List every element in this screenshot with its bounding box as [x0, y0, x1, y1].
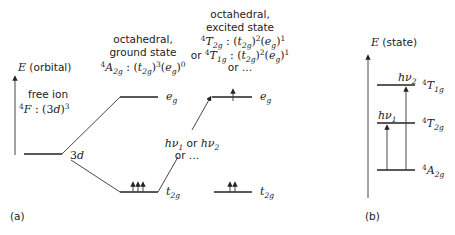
- ground-t2g-electrons: [133, 184, 143, 192]
- ground-title-2: ground state: [109, 46, 176, 58]
- excited-eg-label: eg: [260, 90, 272, 105]
- split-line-down: [71, 160, 120, 192]
- term-T1g: 4T1g: [422, 78, 444, 94]
- panel-b: E (state) 4T1g 4T2g 4A2g hν1 hν2 (b): [365, 36, 445, 222]
- panel-a-label: (a): [10, 210, 25, 222]
- energy-level-diagram: E (orbital) free ion 4F : (3d)3 3d octah…: [0, 0, 455, 235]
- label-3d: 3d: [70, 149, 84, 162]
- ground-title-1: octahedral,: [113, 33, 173, 45]
- axis-label-state: E (state): [370, 36, 417, 49]
- excited-t2g-electrons: [230, 184, 235, 192]
- label-hv1: hν1: [378, 109, 397, 124]
- excited-title-1: octahedral,: [210, 8, 270, 20]
- term-A2g: 4A2g: [422, 163, 445, 179]
- excited-title-2: excited state: [206, 21, 274, 33]
- excited-config-3: or …: [228, 61, 253, 73]
- ground-config: 4A2g : (t2g)3(eg)0: [100, 60, 185, 76]
- excitation-line-upper: [192, 98, 210, 130]
- excited-config-1: 4T2g : (t2g)2(eg)1: [201, 34, 285, 50]
- split-line-up: [62, 97, 120, 154]
- excited-t2g-label: t2g: [260, 185, 274, 200]
- term-T2g: 4T2g: [422, 116, 444, 132]
- transition-label-2: or …: [175, 149, 200, 161]
- free-ion-title: free ion: [28, 88, 68, 100]
- axis-label-orbital: E (orbital): [17, 61, 71, 74]
- label-hv2: hν2: [398, 71, 417, 86]
- panel-a: E (orbital) free ion 4F : (3d)3 3d octah…: [10, 8, 289, 222]
- ground-t2g-label: t2g: [166, 185, 180, 200]
- panel-b-label: (b): [365, 210, 380, 222]
- free-ion-term: 4F : (3d)3: [19, 102, 70, 116]
- ground-eg-label: eg: [166, 90, 178, 105]
